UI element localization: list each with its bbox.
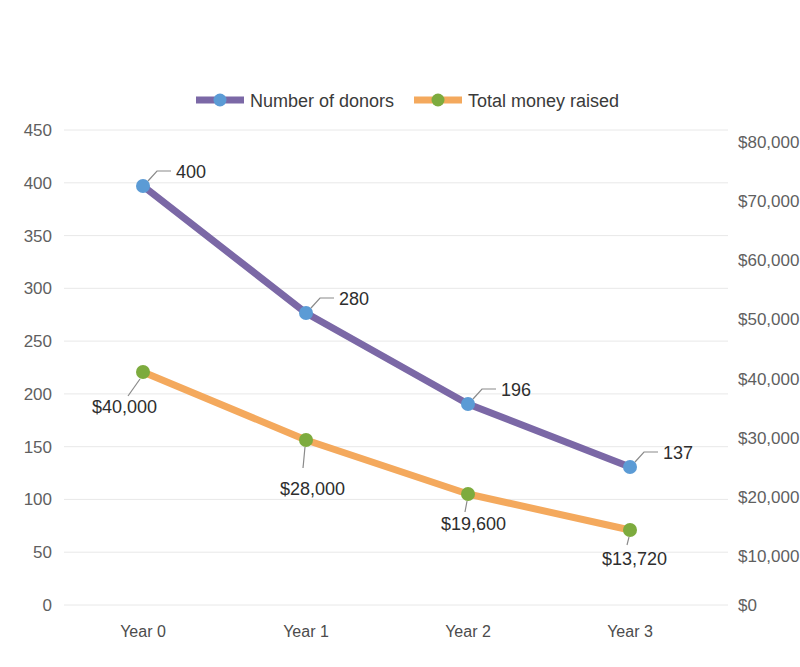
- y-left-tick-400: 400: [24, 174, 52, 193]
- y-left-tick-0: 0: [43, 596, 52, 615]
- y-left-tick-250: 250: [24, 332, 52, 351]
- legend-marker-money: [432, 94, 445, 107]
- donors-point-year-3[interactable]: [623, 460, 637, 474]
- legend-marker-donors: [214, 94, 227, 107]
- donors-point-year-0[interactable]: [136, 179, 150, 193]
- donors-label-year-3: 137: [663, 443, 693, 463]
- y-right-tick-20000: $20,000: [738, 488, 799, 507]
- donors-point-year-1[interactable]: [299, 306, 313, 320]
- y-right-tick-30000: $30,000: [738, 429, 799, 448]
- money-point-year-3[interactable]: [623, 523, 637, 537]
- y-left-tick-350: 350: [24, 227, 52, 246]
- x-category-year-2: Year 2: [445, 623, 491, 640]
- legend-label-donors: Number of donors: [250, 91, 394, 111]
- y-right-tick-60000: $60,000: [738, 251, 799, 270]
- x-category-year-1: Year 1: [283, 623, 329, 640]
- donors-point-year-2[interactable]: [461, 397, 475, 411]
- y-right-tick-70000: $70,000: [738, 192, 799, 211]
- chart-background: [0, 0, 800, 667]
- legend-label-money: Total money raised: [468, 91, 619, 111]
- x-category-year-3: Year 3: [607, 623, 653, 640]
- y-left-tick-100: 100: [24, 490, 52, 509]
- donors-label-year-2: 196: [501, 380, 531, 400]
- y-right-tick-80000: $80,000: [738, 133, 799, 152]
- money-label-year-3: $13,720: [602, 549, 667, 569]
- y-right-tick-50000: $50,000: [738, 310, 799, 329]
- money-label-year-0: $40,000: [92, 397, 157, 417]
- money-label-year-2: $19,600: [441, 514, 506, 534]
- y-left-tick-150: 150: [24, 438, 52, 457]
- y-right-tick-10000: $10,000: [738, 547, 799, 566]
- line-chart: Number of donors Total money raised 450 …: [0, 0, 800, 667]
- donors-label-year-1: 280: [339, 289, 369, 309]
- money-point-year-2[interactable]: [461, 487, 475, 501]
- y-left-tick-300: 300: [24, 279, 52, 298]
- money-point-year-1[interactable]: [299, 433, 313, 447]
- y-left-tick-50: 50: [33, 543, 52, 562]
- y-right-tick-0: $0: [738, 596, 757, 615]
- donors-label-year-0: 400: [176, 162, 206, 182]
- x-category-year-0: Year 0: [120, 623, 166, 640]
- y-right-tick-40000: $40,000: [738, 370, 799, 389]
- y-left-tick-200: 200: [24, 385, 52, 404]
- chart-container: Number of donors Total money raised 450 …: [0, 0, 800, 667]
- money-point-year-0[interactable]: [136, 365, 150, 379]
- money-label-year-1: $28,000: [280, 479, 345, 499]
- y-left-tick-450: 450: [24, 121, 52, 140]
